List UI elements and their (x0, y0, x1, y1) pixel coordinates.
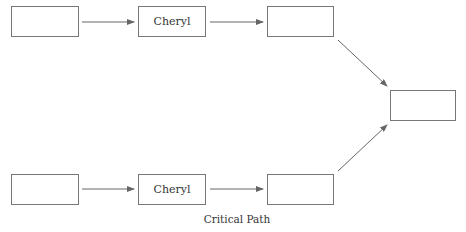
node-bottom-1 (11, 174, 79, 205)
node-top-2: Cheryl (138, 6, 206, 37)
diagram-caption: Critical Path (196, 213, 278, 225)
node-label: Cheryl (153, 15, 190, 28)
node-bottom-2: Cheryl (138, 174, 206, 205)
node-bottom-3 (267, 174, 334, 205)
node-end (390, 90, 456, 121)
edge-bottom-3-to-end (338, 125, 387, 171)
node-top-1 (11, 6, 79, 37)
node-label: Cheryl (153, 183, 190, 196)
node-top-3 (267, 6, 334, 37)
edge-top-3-to-end (338, 40, 387, 86)
